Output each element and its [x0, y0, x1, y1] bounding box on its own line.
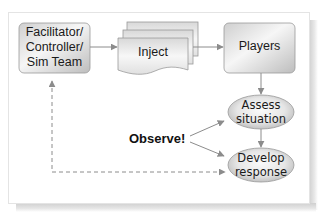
develop-label: Develop response: [228, 151, 294, 179]
assess-label-line: situation: [228, 112, 294, 126]
facilitator-label-line: Controller/: [19, 40, 90, 55]
edge-observe-assess: [190, 121, 224, 136]
facilitator-label-line: Sim Team: [19, 55, 90, 70]
develop-label-line: response: [228, 165, 294, 179]
edge-feedback-dashed: [52, 81, 225, 172]
observe-annotation: Observe!: [129, 131, 185, 146]
assess-label: Assess situation: [228, 98, 294, 126]
facilitator-label: Facilitator/ Controller/ Sim Team: [19, 25, 90, 70]
edge-observe-develop: [190, 142, 224, 156]
inject-label: Inject: [118, 45, 188, 60]
assess-label-line: Assess: [228, 98, 294, 112]
facilitator-label-line: Facilitator/: [19, 25, 90, 40]
players-label: Players: [224, 39, 295, 54]
develop-label-line: Develop: [228, 151, 294, 165]
